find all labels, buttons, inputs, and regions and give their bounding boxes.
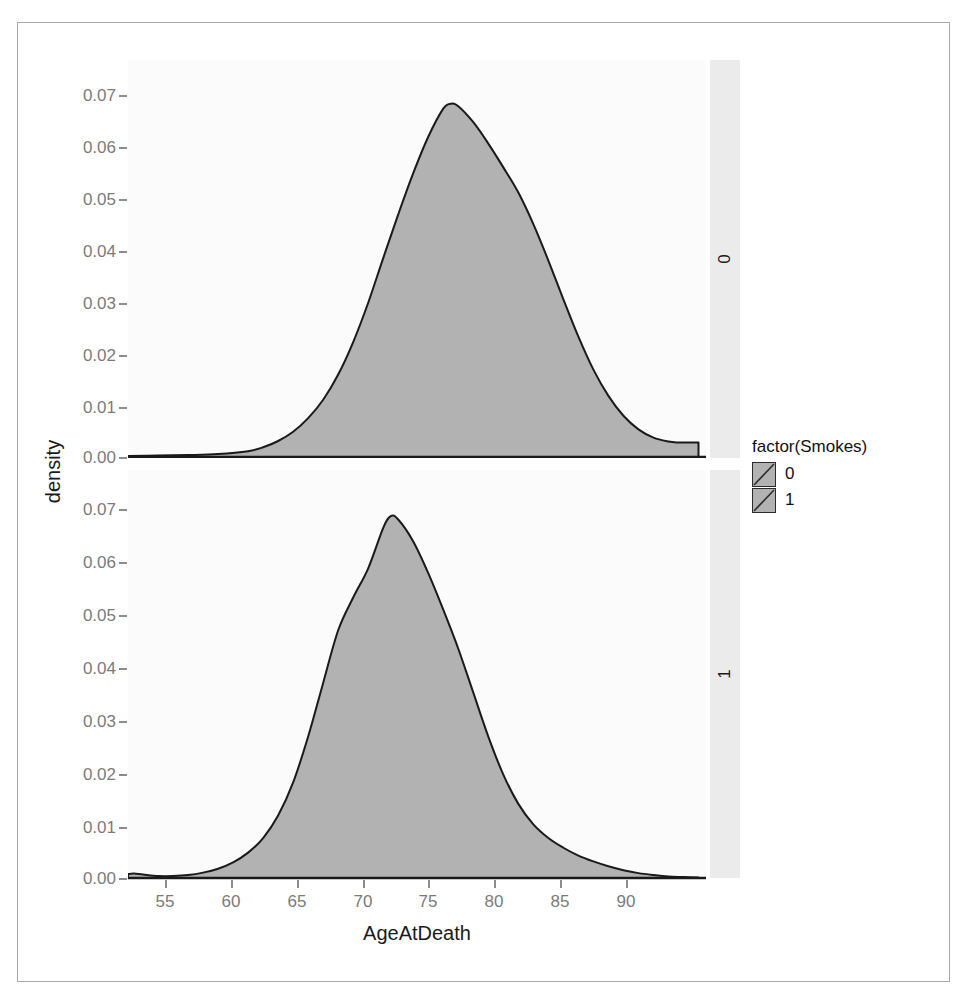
y-tick-mark-bottom-0.01 <box>119 827 127 829</box>
density-plot-figure: 0 1 density AgeAtDeath 0.07 0.06 0.05 0.… <box>0 0 963 999</box>
y-tick-label-top-0.06: 0.06 <box>58 138 116 158</box>
facet-strip-label-0: 0 <box>715 254 735 263</box>
legend-item-0[interactable]: 0 <box>752 461 932 487</box>
x-tick-label-85: 85 <box>530 892 590 912</box>
x-tick-label-70: 70 <box>333 892 393 912</box>
x-tick-label-80: 80 <box>464 892 524 912</box>
x-tick-mark-65 <box>297 880 299 888</box>
y-tick-label-bottom-0.03: 0.03 <box>58 712 116 732</box>
y-tick-label-bottom-0.05: 0.05 <box>58 606 116 626</box>
y-tick-mark-bottom-0.02 <box>119 774 127 776</box>
legend-title: factor(Smokes) <box>752 437 932 457</box>
x-tick-mark-90 <box>626 880 628 888</box>
y-tick-mark-top-0.02 <box>119 355 127 357</box>
y-tick-label-bottom-0.01: 0.01 <box>58 818 116 838</box>
y-tick-mark-top-0.07 <box>119 95 127 97</box>
y-tick-label-top-0.03: 0.03 <box>58 294 116 314</box>
x-tick-label-75: 75 <box>398 892 458 912</box>
facet-strip-1: 1 <box>710 470 740 878</box>
y-tick-label-top-0.01: 0.01 <box>58 398 116 418</box>
x-tick-label-90: 90 <box>596 892 656 912</box>
x-axis-title: AgeAtDeath <box>128 922 706 945</box>
x-tick-label-65: 65 <box>267 892 327 912</box>
density-curve-facet-0 <box>128 58 706 458</box>
y-tick-mark-bottom-0.03 <box>119 721 127 723</box>
y-tick-label-top-0.05: 0.05 <box>58 190 116 210</box>
y-tick-mark-bottom-0.04 <box>119 668 127 670</box>
legend-item-label-1: 1 <box>785 490 794 510</box>
x-tick-label-60: 60 <box>201 892 261 912</box>
x-tick-mark-85 <box>560 880 562 888</box>
y-tick-mark-bottom-0.06 <box>119 562 127 564</box>
y-tick-mark-bottom-0.00 <box>119 878 127 880</box>
y-tick-label-bottom-0.00: 0.00 <box>58 869 116 889</box>
legend-key-swatch-icon <box>752 462 776 487</box>
legend-item-1[interactable]: 1 <box>752 487 932 513</box>
y-tick-label-bottom-0.07: 0.07 <box>58 500 116 520</box>
y-tick-label-top-0.00: 0.00 <box>58 448 116 468</box>
y-tick-mark-bottom-0.05 <box>119 615 127 617</box>
legend-key-swatch-icon <box>752 488 776 513</box>
x-tick-mark-75 <box>428 880 430 888</box>
y-tick-mark-top-0.00 <box>119 457 127 459</box>
legend: factor(Smokes) 0 1 <box>752 437 932 513</box>
y-tick-mark-top-0.03 <box>119 303 127 305</box>
facet-strip-0: 0 <box>710 60 740 458</box>
y-tick-label-top-0.02: 0.02 <box>58 346 116 366</box>
y-tick-label-bottom-0.04: 0.04 <box>58 659 116 679</box>
y-tick-label-bottom-0.06: 0.06 <box>58 553 116 573</box>
y-tick-mark-top-0.04 <box>119 251 127 253</box>
density-curve-facet-1 <box>128 468 706 880</box>
y-tick-label-top-0.07: 0.07 <box>58 86 116 106</box>
x-tick-mark-55 <box>165 880 167 888</box>
x-tick-label-55: 55 <box>135 892 195 912</box>
y-tick-label-bottom-0.02: 0.02 <box>58 765 116 785</box>
y-tick-label-top-0.04: 0.04 <box>58 242 116 262</box>
facet-strip-label-1: 1 <box>715 669 735 678</box>
x-tick-mark-60 <box>231 880 233 888</box>
y-tick-mark-top-0.01 <box>119 407 127 409</box>
y-tick-mark-bottom-0.07 <box>119 509 127 511</box>
y-tick-mark-top-0.06 <box>119 147 127 149</box>
y-tick-mark-top-0.05 <box>119 199 127 201</box>
x-tick-mark-70 <box>363 880 365 888</box>
legend-item-label-0: 0 <box>785 464 794 484</box>
x-tick-mark-80 <box>494 880 496 888</box>
